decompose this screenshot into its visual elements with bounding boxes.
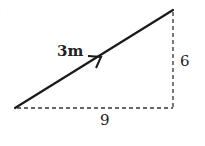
vector-magnitude-label: 3m <box>57 44 83 59</box>
vertical-leg-label: 6 <box>180 54 190 69</box>
horizontal-leg-label: 9 <box>100 113 110 128</box>
vector-diagram: ) 3m 6 9 <box>0 0 205 146</box>
vector-line <box>15 10 173 108</box>
